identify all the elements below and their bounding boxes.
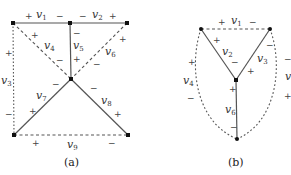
sign-b-v4-plus: + [188,57,196,67]
sign-a-v1-plus: + [25,11,33,21]
caption-a: (a) [64,156,79,169]
vertex-a3 [125,21,129,25]
sign-b-v5-minus: − [284,54,291,64]
label-b-v4: v4 [183,74,194,88]
label-b-v5: v5 [285,70,291,84]
sign-a-v6-minus: − [93,59,101,69]
sign-a-v6-plus: + [119,34,127,44]
sign-a-v1-minus: − [56,11,64,21]
sign-b-v1-minus: − [249,17,257,27]
label-b-v6: v6 [225,103,236,117]
vertex-a4 [69,77,73,81]
label-a-v8: v8 [101,94,112,108]
vertex-a2 [68,21,72,25]
figure-a: + v1 − − v2 + + v3 − + v4 − − v5 + + v6 … [1,8,130,169]
sign-a-v7-minus: − [52,79,60,89]
label-a-v3: v3 [1,74,12,88]
sign-a-v4-minus: − [56,55,64,65]
sign-b-v3-minus: − [266,40,274,50]
label-b-v1: v1 [231,14,242,28]
sign-b-v5-plus: + [284,91,291,101]
label-a-v1: v1 [36,8,47,22]
sign-b-v2-minus: − [231,57,239,67]
label-a-v5: v5 [73,39,84,53]
graph-diagram: + v1 − − v2 + + v3 − + v4 − − v5 + + v6 … [0,0,291,175]
sign-a-v3-plus: + [5,48,13,58]
sign-a-v5-minus: − [73,28,81,38]
vertex-a5 [12,133,16,137]
sign-a-v7-plus: + [29,106,37,116]
sign-b-v6-plus: + [229,84,237,94]
sign-a-v5-plus: + [73,54,81,64]
edge-a-v4 [13,23,71,79]
caption-b: (b) [228,156,244,169]
vertex-a6 [126,133,130,137]
sign-b-v3-plus: + [247,66,255,76]
label-a-v7: v7 [36,89,47,103]
edge-a-v5 [70,23,71,79]
sign-a-v9-minus: − [108,138,116,148]
vertex-b3 [234,78,238,82]
edge-a-v8 [71,79,128,135]
sign-a-v9-plus: + [32,138,40,148]
vertex-b2 [268,27,272,31]
vertex-b1 [199,27,203,31]
sign-b-v6-minus: − [230,122,238,132]
label-a-v2: v2 [92,8,103,22]
label-b-v3: v3 [257,52,268,66]
figure-b: + v1 − + v2 − − v3 + + v4 − − v5 + + v6 … [183,14,291,169]
sign-a-v4-plus: + [31,30,39,40]
label-a-v4: v4 [44,39,55,53]
vertex-a1 [11,21,15,25]
label-a-v9: v9 [67,138,78,152]
sign-b-v4-minus: − [187,93,195,103]
sign-b-v1-plus: + [218,17,226,27]
edge-a-v3 [13,23,14,135]
sign-a-v8-plus: + [114,109,122,119]
sign-a-v2-plus: + [109,11,117,21]
edge-a-v7 [14,79,71,135]
sign-b-v2-plus: + [213,35,221,45]
label-a-v6: v6 [105,45,116,59]
sign-a-v8-minus: − [90,83,98,93]
sign-a-v3-minus: − [5,109,13,119]
vertex-b4 [235,137,239,141]
sign-a-v2-minus: − [79,11,87,21]
